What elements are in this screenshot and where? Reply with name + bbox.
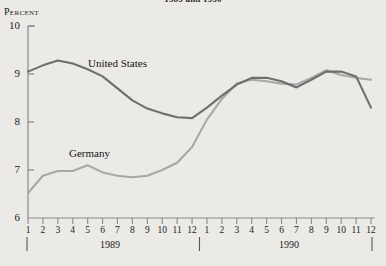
- x-axis-tick-label: 2: [35, 226, 51, 236]
- y-axis-tick-label: 6: [2, 212, 20, 223]
- x-axis-group-label-1990: 1990: [259, 240, 319, 250]
- x-axis-tick-label: 12: [184, 226, 200, 236]
- x-axis-tick-label: 10: [333, 226, 349, 236]
- y-axis-tick-label: 9: [2, 68, 20, 79]
- x-axis-tick-label: 9: [139, 226, 155, 236]
- x-axis-tick-label: 5: [259, 226, 275, 236]
- y-axis-tick-label: 7: [2, 164, 20, 175]
- x-axis-tick-label: 10: [154, 226, 170, 236]
- x-axis-tick-label: 12: [363, 226, 379, 236]
- x-axis-tick-label: 4: [244, 226, 260, 236]
- x-axis-tick-label: 11: [169, 226, 185, 236]
- x-axis-group-label-1989: 1989: [80, 240, 140, 250]
- x-axis-tick-label: 9: [318, 226, 334, 236]
- x-axis-tick-label: 5: [80, 226, 96, 236]
- x-axis-tick-label: 4: [65, 226, 81, 236]
- x-axis-tick-label: 1: [20, 226, 36, 236]
- series-label-united-states: United States: [88, 58, 147, 69]
- y-axis-tick-label: 10: [2, 20, 20, 31]
- x-axis-tick-label: 7: [109, 226, 125, 236]
- x-axis-tick-label: 7: [288, 226, 304, 236]
- x-axis-tick-label: 8: [303, 226, 319, 236]
- y-axis-tick-label: 8: [2, 116, 20, 127]
- x-axis-tick-label: 3: [229, 226, 245, 236]
- x-axis-tick-label: 2: [214, 226, 230, 236]
- unemployment-rate-chart: 1989 and 1990 Percent 678910 12345678910…: [0, 0, 386, 266]
- x-axis-tick-label: 6: [274, 226, 290, 236]
- x-axis-tick-label: 8: [124, 226, 140, 236]
- x-axis-tick-label: 6: [95, 226, 111, 236]
- x-axis-tick-label: 3: [50, 226, 66, 236]
- series-label-germany: Germany: [69, 148, 110, 159]
- x-axis-tick-label: 1: [199, 226, 215, 236]
- x-axis-tick-label: 11: [348, 226, 364, 236]
